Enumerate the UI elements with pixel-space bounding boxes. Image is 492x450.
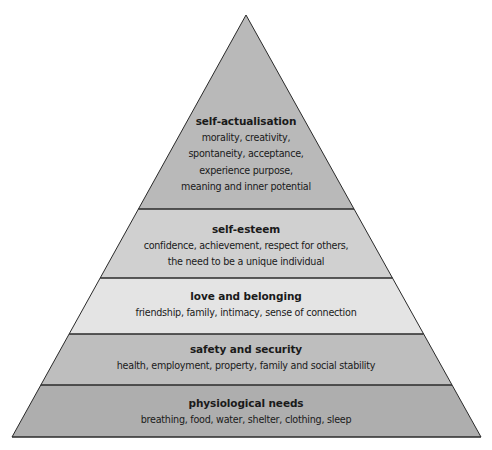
pyramid-band bbox=[12, 385, 481, 437]
pyramid-band bbox=[41, 334, 452, 385]
pyramid-band bbox=[138, 15, 354, 209]
pyramid-band bbox=[100, 209, 392, 278]
pyramid-shape bbox=[0, 0, 492, 450]
pyramid-band bbox=[69, 278, 424, 334]
